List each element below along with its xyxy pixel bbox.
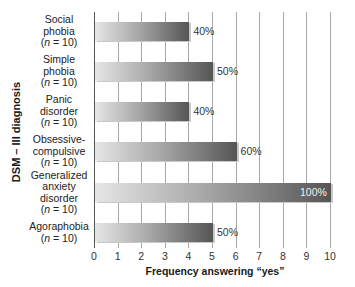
- category-label: Obsessive-compulsive(n = 10): [28, 134, 90, 169]
- gridline: [283, 12, 284, 248]
- gridline: [188, 12, 189, 248]
- category-label: Generalizedanxietydisorder(n = 10): [28, 170, 90, 216]
- data-label: 50%: [217, 226, 238, 238]
- category-label: Panicdisorder(n = 10): [28, 94, 90, 129]
- gridline: [330, 12, 331, 248]
- x-tick-label: 7: [251, 250, 267, 262]
- x-axis-label: Frequency answering “yes”: [140, 265, 290, 277]
- x-tick-label: 6: [228, 250, 244, 262]
- bar: [95, 62, 213, 81]
- bar: [95, 102, 189, 121]
- category-label: Agoraphobia(n = 10): [28, 221, 90, 244]
- bar: [95, 183, 331, 202]
- bar: [95, 142, 237, 161]
- gridline: [306, 12, 307, 248]
- data-label: 50%: [217, 65, 238, 77]
- gridline: [212, 12, 213, 248]
- data-label: 40%: [193, 105, 214, 117]
- data-label: 60%: [241, 145, 262, 157]
- x-tick-label: 8: [275, 250, 291, 262]
- bar: [95, 223, 213, 242]
- y-axis-label: DSM – III diagnosis: [10, 62, 26, 202]
- x-tick-label: 0: [86, 250, 102, 262]
- gridline: [141, 12, 142, 248]
- x-tick-label: 3: [157, 250, 173, 262]
- gridline: [236, 12, 237, 248]
- x-tick-label: 9: [298, 250, 314, 262]
- data-label: 100%: [300, 186, 327, 198]
- bar-chart: DSM – III diagnosis Socialphobia(n = 10)…: [0, 0, 355, 287]
- bar: [95, 22, 189, 41]
- gridline: [118, 12, 119, 248]
- data-label: 40%: [193, 25, 214, 37]
- category-label: Socialphobia(n = 10): [28, 14, 90, 49]
- x-tick-label: 10: [322, 250, 338, 262]
- x-tick-label: 1: [110, 250, 126, 262]
- x-tick-label: 4: [180, 250, 196, 262]
- x-tick-label: 2: [133, 250, 149, 262]
- gridline: [165, 12, 166, 248]
- x-tick-label: 5: [204, 250, 220, 262]
- gridline: [259, 12, 260, 248]
- category-label: Simplephobia(n = 10): [28, 54, 90, 89]
- y-axis-line: [94, 12, 95, 248]
